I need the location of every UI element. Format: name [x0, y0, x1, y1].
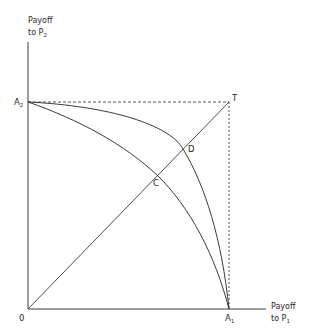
point-d-label: D [188, 144, 195, 154]
point-t-label: T [231, 93, 238, 103]
payoff-diagram: Payoff to P2 Payoff to P1 0 A2 A1 T D C [0, 0, 309, 336]
y-axis-label-line1: Payoff [28, 16, 53, 25]
origin-label: 0 [19, 313, 24, 323]
point-a1-label: A1 [225, 313, 234, 324]
x-axis-label-line2: to P1 [271, 314, 290, 324]
y-axis-label-line2: to P2 [28, 28, 47, 38]
point-a2-label: A2 [14, 97, 23, 108]
point-c-label: C [153, 178, 159, 188]
x-axis-label-line1: Payoff [271, 302, 296, 311]
diagonal-line-0-t [28, 102, 229, 309]
